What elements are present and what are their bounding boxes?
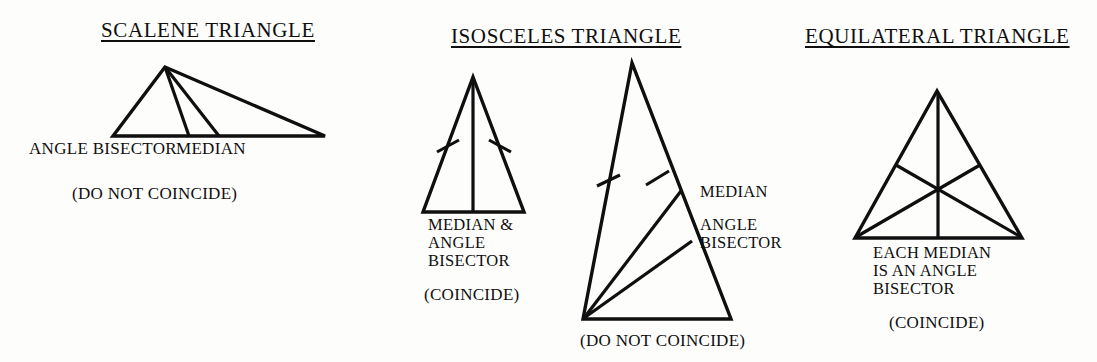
scalene-angle-bisector-label: ANGLE BISECTOR [29, 139, 177, 159]
equilateral-panel-title: EQUILATERAL TRIANGLE [805, 24, 1070, 49]
scalene-note: (DO NOT COINCIDE) [72, 184, 237, 204]
equilateral-label-line2: IS AN ANGLE [873, 262, 977, 281]
equilateral-note: (COINCIDE) [889, 313, 985, 333]
equilateral-triangle-group [855, 91, 1022, 238]
isosceles-coincide-label-line2: ANGLE [428, 234, 485, 253]
scalene-triangle-outline [113, 67, 325, 136]
scalene-panel-title: SCALENE TRIANGLE [101, 18, 315, 43]
triangles-svg [0, 0, 1097, 362]
scalene-triangle-group [113, 67, 325, 136]
equilateral-label-line1: EACH MEDIAN [873, 244, 991, 263]
isosceles-coincide-note: (COINCIDE) [424, 285, 520, 305]
tick-mark-right-icon [646, 171, 669, 185]
diagram-canvas: SCALENE TRIANGLE ANGLE BISECTOR MEDIAN (… [0, 0, 1097, 362]
isosceles-not-coincide-median-line [584, 191, 681, 318]
isosceles-coincide-label-line1: MEDIAN & [428, 216, 513, 235]
isosceles-panel-title: ISOSCELES TRIANGLE [451, 24, 681, 49]
isosceles-coincide-triangle-group [423, 77, 524, 212]
isosceles-not-coincide-angle-bisector-label-line2: BISECTOR [700, 234, 782, 253]
scalene-median-label: MEDIAN [176, 139, 246, 159]
equilateral-label-line3: BISECTOR [873, 280, 955, 299]
isosceles-not-coincide-note: (DO NOT COINCIDE) [580, 331, 745, 351]
isosceles-coincide-label-line3: BISECTOR [428, 252, 510, 271]
isosceles-not-coincide-angle-bisector-label-line1: ANGLE [700, 216, 757, 235]
isosceles-not-coincide-median-label: MEDIAN [700, 183, 768, 202]
isosceles-not-coincide-angle-bisector-line [584, 241, 692, 318]
